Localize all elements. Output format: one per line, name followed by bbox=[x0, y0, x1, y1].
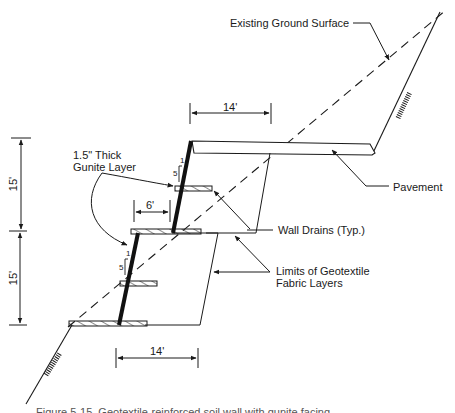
dim-top-14: 14' bbox=[223, 101, 237, 113]
gunite-wall-lower bbox=[119, 233, 138, 325]
batter-lower-rise: 5 bbox=[119, 263, 123, 272]
dim-bottom-14: 14' bbox=[150, 345, 164, 357]
leader-gunite-lower bbox=[91, 173, 127, 245]
lower-geotextile-limit bbox=[145, 233, 218, 325]
batter-lower-run: 1 bbox=[126, 249, 130, 258]
batter-upper-run: 1 bbox=[180, 156, 184, 165]
cross-section-drawing bbox=[0, 0, 455, 413]
dim-bench-6: 6' bbox=[146, 199, 154, 211]
pavement-slab bbox=[192, 141, 375, 155]
label-pavement: Pavement bbox=[393, 181, 443, 193]
lower-cut-slope bbox=[26, 325, 72, 404]
leader-gunite-upper bbox=[102, 173, 173, 186]
batter-symbol-lower bbox=[125, 259, 128, 275]
upper-cut-slope bbox=[372, 12, 440, 155]
diagram-canvas: Existing Ground Surface 1.5" Thick Gunit… bbox=[0, 0, 455, 413]
label-geotextile-line2: Fabric Layers bbox=[276, 277, 343, 289]
batter-upper-rise: 5 bbox=[173, 169, 177, 178]
soil-hatch-icon-lower bbox=[46, 353, 60, 375]
label-gunite-line2: Gunite Layer bbox=[73, 161, 136, 173]
dim-lower-15: 15' bbox=[7, 271, 19, 285]
label-gunite-line1: 1.5" Thick bbox=[73, 149, 121, 161]
label-wall-drains: Wall Drains (Typ.) bbox=[278, 224, 365, 236]
wall-drain-bench bbox=[131, 229, 201, 234]
leader-wall-drains-1 bbox=[214, 191, 250, 229]
label-existing-ground-surface: Existing Ground Surface bbox=[230, 17, 349, 29]
leader-geotextile-1 bbox=[235, 236, 270, 272]
dim-upper-15: 15' bbox=[7, 177, 19, 191]
leader-existing-ground bbox=[353, 23, 389, 60]
wall-drain-base bbox=[69, 321, 147, 326]
figure-caption: Figure 5-15. Geotextile-reinforced soil … bbox=[36, 406, 330, 413]
label-geotextile-line1: Limits of Geotextile bbox=[276, 265, 370, 277]
